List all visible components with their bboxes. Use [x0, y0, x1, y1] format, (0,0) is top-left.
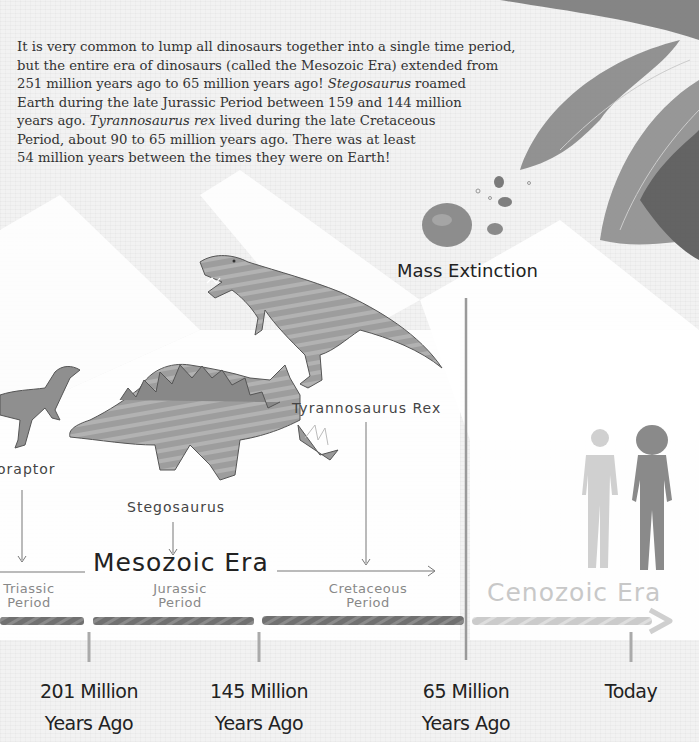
- jurassic-period-label: Jurassic Period: [140, 582, 220, 610]
- triassic-period-label: Triassic Period: [0, 582, 58, 610]
- intro-paragraph: It is very common to lump all dinosaurs …: [17, 38, 657, 168]
- tick-145-million: 145 Million Years Ago: [199, 675, 319, 739]
- intro-line: 251 million years ago to 65 million year…: [17, 75, 657, 94]
- period-name: Jurassic: [140, 582, 220, 596]
- cretaceous-bar: [262, 616, 464, 625]
- intro-text: years ago.: [17, 113, 90, 128]
- period-name: Triassic: [0, 582, 58, 596]
- trex-label: Tyrannosaurus Rex: [292, 400, 441, 416]
- tick-value: 145 Million: [199, 675, 319, 707]
- cretaceous-period-label: Cretaceous Period: [318, 582, 418, 610]
- period-word: Period: [0, 596, 58, 610]
- cenozoic-bar: [472, 617, 652, 625]
- period-name: Cretaceous: [318, 582, 418, 596]
- mesozoic-era-label: Mesozoic Era: [93, 548, 269, 577]
- intro-line: Earth during the late Jurassic Period be…: [17, 94, 657, 113]
- tick-201-million: 201 Million Years Ago: [29, 675, 149, 739]
- intro-line: It is very common to lump all dinosaurs …: [17, 38, 657, 57]
- jurassic-bar: [93, 617, 254, 625]
- tick-65-million: 65 Million Years Ago: [406, 675, 526, 739]
- stegosaurus-label: Stegosaurus: [127, 499, 225, 515]
- intro-text: 251 million years ago to 65 million year…: [17, 76, 328, 91]
- intro-text: lived during the late Cretaceous: [216, 113, 436, 128]
- asteroid-icon: [422, 176, 531, 247]
- cenozoic-era-label: Cenozoic Era: [487, 578, 661, 607]
- tick-value: 201 Million: [29, 675, 149, 707]
- triassic-bar: [0, 617, 84, 625]
- tick-today: Today: [571, 675, 691, 707]
- period-word: Period: [318, 596, 418, 610]
- period-word: Period: [140, 596, 220, 610]
- intro-line: years ago. Tyrannosaurus rex lived durin…: [17, 112, 657, 131]
- tick-unit: Years Ago: [406, 707, 526, 739]
- tick-unit: Years Ago: [199, 707, 319, 739]
- trex-term: Tyrannosaurus rex: [90, 113, 216, 128]
- intro-line: Period, about 90 to 65 million years ago…: [17, 131, 657, 150]
- intro-line: but the entire era of dinosaurs (called …: [17, 57, 657, 76]
- tick-unit: Years Ago: [29, 707, 149, 739]
- tick-value: Today: [571, 675, 691, 707]
- intro-text: roamed: [411, 76, 466, 91]
- tick-value: 65 Million: [406, 675, 526, 707]
- intro-line: 54 million years between the times they …: [17, 149, 657, 168]
- stegosaurus-term: Stegosaurus: [328, 76, 411, 91]
- raptor-label: oraptor: [0, 461, 56, 477]
- mass-extinction-label: Mass Extinction: [397, 260, 538, 281]
